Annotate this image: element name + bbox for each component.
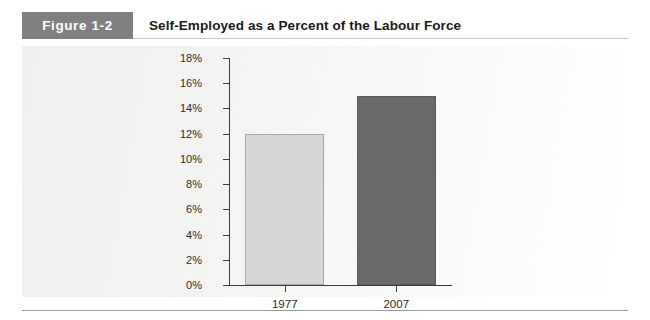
figure-number-label: Figure 1-2	[42, 18, 113, 33]
y-axis-tick	[223, 184, 229, 185]
x-axis-tick-label: 1977	[272, 298, 298, 310]
y-axis-tick-label: 10%	[180, 153, 202, 165]
y-axis-tick	[223, 260, 229, 261]
y-axis-tick	[223, 159, 229, 160]
y-axis-tick-label: 16%	[180, 77, 202, 89]
y-axis-tick-label: 12%	[180, 128, 202, 140]
y-axis-tick	[223, 209, 229, 210]
bar-2007	[357, 96, 436, 285]
y-axis-tick	[223, 285, 229, 286]
y-axis-tick-label: 6%	[186, 203, 202, 215]
y-axis-tick-label: 8%	[186, 178, 202, 190]
plot-area: 0%2%4%6%8%10%12%14%16%18% 19772007	[207, 58, 452, 285]
y-axis-tick-label: 14%	[180, 102, 202, 114]
figure-title: Self-Employed as a Percent of the Labour…	[149, 12, 461, 39]
x-axis-tick-label: 2007	[383, 298, 409, 310]
bar-1977	[245, 134, 324, 285]
y-axis-tick	[223, 108, 229, 109]
chart-panel: 0%2%4%6%8%10%12%14%16%18% 19772007	[22, 46, 628, 297]
figure-header: Figure 1-2 Self-Employed as a Percent of…	[22, 12, 628, 39]
header-divider	[133, 38, 628, 39]
x-axis-tick	[396, 286, 397, 292]
figure-container: Figure 1-2 Self-Employed as a Percent of…	[0, 0, 650, 320]
x-axis-tick	[285, 286, 286, 292]
y-axis-tick	[223, 83, 229, 84]
y-axis-tick	[223, 58, 229, 59]
y-axis-tick	[223, 134, 229, 135]
y-axis-tick-label: 4%	[186, 229, 202, 241]
y-axis-line	[229, 58, 230, 285]
y-axis-tick-label: 18%	[180, 52, 202, 64]
x-axis-line	[229, 285, 452, 286]
y-axis-tick-label: 0%	[186, 279, 202, 291]
figure-number-badge: Figure 1-2	[22, 12, 133, 39]
figure-bottom-divider	[22, 310, 628, 311]
y-axis-tick	[223, 235, 229, 236]
y-axis-tick-label: 2%	[186, 254, 202, 266]
